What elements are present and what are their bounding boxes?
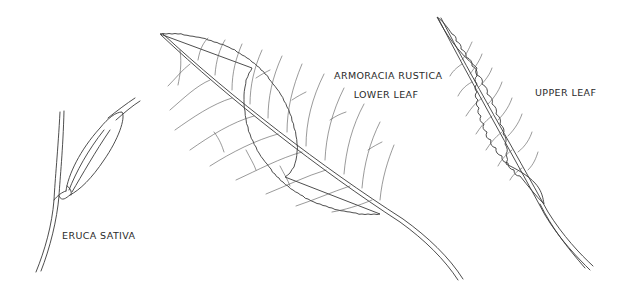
armoracia-upper-leaf-drawing <box>437 17 593 270</box>
upper-leaf-label: UPPER LEAF <box>535 87 596 98</box>
eruca-sativa-label: ERUCA SATIVA <box>62 230 135 241</box>
armoracia-rustica-label: ARMORACIA RUSTICA <box>334 70 438 81</box>
lower-leaf-label: LOWER LEAF <box>334 89 438 100</box>
illustration-canvas <box>0 0 625 295</box>
eruca-sativa-drawing <box>36 98 140 272</box>
botanical-plate: ERUCA SATIVA ARMORACIA RUSTICA LOWER LEA… <box>0 0 625 295</box>
